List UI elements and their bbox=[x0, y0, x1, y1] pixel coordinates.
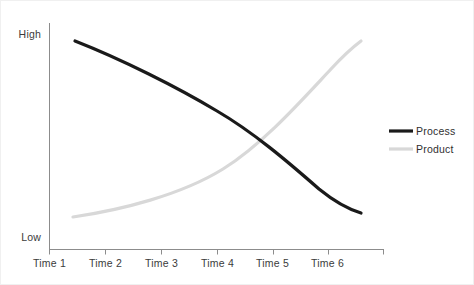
x-tick-label-time-6: Time 6 bbox=[299, 257, 356, 269]
x-tick-label-time-3: Time 3 bbox=[133, 257, 190, 269]
y-axis-label-high: High bbox=[7, 28, 41, 40]
series-line-process bbox=[75, 41, 361, 213]
x-tick-label-time-2: Time 2 bbox=[77, 257, 134, 269]
x-tick-label-time-1: Time 1 bbox=[21, 257, 78, 269]
legend-item-process: Process bbox=[416, 125, 455, 137]
y-axis-label-low: Low bbox=[7, 231, 41, 243]
series-line-product bbox=[73, 41, 361, 217]
legend-item-product: Product bbox=[416, 143, 454, 155]
x-axis-ticks bbox=[50, 250, 384, 255]
chart-plot-area bbox=[1, 1, 474, 285]
x-tick-label-time-4: Time 4 bbox=[189, 257, 246, 269]
chart-figure: High Low Time 1 Time 2 Time 3 Time 4 Tim… bbox=[0, 0, 474, 285]
x-tick-label-time-5: Time 5 bbox=[244, 257, 301, 269]
